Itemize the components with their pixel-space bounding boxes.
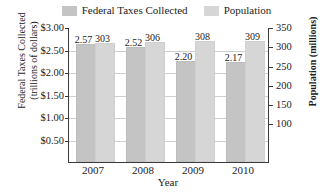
bar-population-2007[interactable] bbox=[95, 43, 115, 162]
right-axis-tick bbox=[268, 105, 273, 106]
left-axis-tick-label: $3.00 bbox=[22, 23, 64, 34]
bar-value-label-population-2007: 303 bbox=[90, 34, 116, 44]
left-axis-tick bbox=[65, 28, 69, 29]
right-axis-tick bbox=[268, 47, 273, 48]
right-axis-tick-label: 100 bbox=[276, 119, 310, 130]
left-axis-tick-label: $1.50 bbox=[22, 91, 64, 102]
legend-label-federal-taxes-collected: Federal Taxes Collected bbox=[82, 5, 188, 16]
left-axis-tick-label: $0.50 bbox=[22, 136, 64, 147]
right-axis-tick-label: 350 bbox=[276, 23, 310, 34]
x-axis-title: Year bbox=[68, 176, 268, 188]
left-y-axis-title-line2: (trillions of dollars) bbox=[27, 0, 39, 131]
left-axis-tick bbox=[65, 96, 69, 97]
left-axis-tick bbox=[65, 73, 69, 74]
left-axis-tick-label: $2.50 bbox=[22, 46, 64, 57]
plot-area bbox=[68, 28, 268, 163]
bar-value-label-population-2010: 309 bbox=[240, 32, 266, 42]
chart-legend: Federal Taxes Collected Population bbox=[0, 5, 333, 16]
legend-item-population: Population bbox=[204, 5, 272, 16]
left-y-axis-title: Federal Taxes Collected (trillions of do… bbox=[16, 0, 39, 131]
bar-population-2008[interactable] bbox=[145, 42, 165, 162]
bar-federal-taxes-2008[interactable] bbox=[126, 47, 146, 162]
right-axis-tick bbox=[268, 28, 273, 29]
left-axis-tick bbox=[65, 118, 69, 119]
left-axis-tick bbox=[65, 51, 69, 52]
legend-swatch-population bbox=[204, 6, 219, 16]
left-axis-tick bbox=[65, 141, 69, 142]
legend-item-federal-taxes-collected: Federal Taxes Collected bbox=[62, 5, 188, 16]
x-axis-tick-label-2008: 2008 bbox=[120, 164, 166, 176]
legend-swatch-federal-taxes-collected bbox=[62, 6, 77, 16]
left-y-axis-title-line1: Federal Taxes Collected bbox=[16, 0, 28, 131]
bar-value-label-population-2009: 308 bbox=[190, 32, 216, 42]
legend-label-population: Population bbox=[224, 5, 272, 16]
bar-federal-taxes-2009[interactable] bbox=[176, 61, 196, 162]
x-axis-tick-label-2010: 2010 bbox=[220, 164, 266, 176]
bar-federal-taxes-2007[interactable] bbox=[76, 44, 96, 162]
bar-population-2009[interactable] bbox=[195, 41, 215, 162]
right-axis-tick bbox=[268, 124, 273, 125]
x-axis-tick-label-2007: 2007 bbox=[70, 164, 116, 176]
bar-value-label-taxes-2010: 2.17 bbox=[221, 53, 247, 63]
right-axis-tick-label: 300 bbox=[276, 42, 310, 53]
right-axis-tick-label: 150 bbox=[276, 100, 310, 111]
left-axis-tick-label: $1.00 bbox=[22, 113, 64, 124]
right-axis-tick bbox=[268, 67, 273, 68]
left-axis-tick-label: $2.00 bbox=[22, 68, 64, 79]
bar-value-label-taxes-2009: 2.20 bbox=[171, 52, 197, 62]
bar-federal-taxes-2010[interactable] bbox=[226, 62, 246, 162]
bar-chart: Federal Taxes Collected Population Feder… bbox=[0, 0, 333, 192]
bar-value-label-population-2008: 306 bbox=[140, 33, 166, 43]
x-axis-tick-label-2009: 2009 bbox=[170, 164, 216, 176]
right-axis-tick-label: 250 bbox=[276, 62, 310, 73]
right-axis-tick-label: 200 bbox=[276, 81, 310, 92]
right-axis-tick bbox=[268, 86, 273, 87]
bar-population-2010[interactable] bbox=[245, 41, 265, 162]
